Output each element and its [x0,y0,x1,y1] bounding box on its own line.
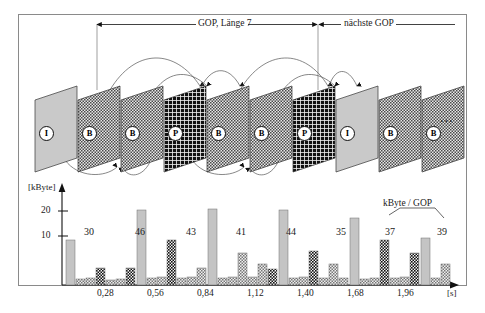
bar [339,278,348,285]
bar [400,277,409,285]
bar [197,268,206,285]
gop-total-7: 39 [437,226,447,237]
x-tick-1: 0,56 [147,288,164,298]
bar [116,279,125,285]
bar [208,209,217,285]
gop-total-6: 37 [385,226,395,237]
figure-root: I B B P B B P I B B GOP, Länge 7 nächste… [0,0,485,313]
bar [137,210,146,285]
bar [157,277,166,285]
bar [218,278,227,285]
gop-total-0: 30 [84,226,94,237]
bar [289,278,298,285]
bar [228,277,237,285]
bar [279,210,288,285]
bar [380,240,389,285]
kbyte-per-gop-leaders [389,208,444,218]
gop-total-1: 46 [135,226,145,237]
gop-total-3: 41 [236,226,246,237]
bar [76,279,85,285]
bar [441,264,450,285]
bar [106,280,115,285]
bar [96,268,105,285]
bar [329,264,338,285]
y-tick-10: 10 [41,230,51,240]
bar [350,218,359,285]
gop-total-5: 35 [336,226,346,237]
gop-total-4: 44 [286,226,296,237]
bar [360,279,369,285]
bar-chart-layer [0,0,485,313]
bar [238,253,247,285]
bar [431,278,440,285]
bar [86,278,95,285]
bar [268,269,277,285]
bar [248,277,257,285]
x-tick-2: 0,84 [197,288,214,298]
x-axis-label: [s] [447,288,457,298]
bar [319,278,328,285]
x-tick-5: 1,68 [347,288,364,298]
bar [167,240,176,285]
x-tick-4: 1,40 [297,288,314,298]
y-axis-label: [kByte] [28,182,56,192]
bar [370,278,379,285]
bar [147,278,156,285]
bar [299,277,308,285]
bar [421,238,430,285]
bar [309,251,318,285]
gop-total-2: 43 [186,226,196,237]
kbyte-per-gop-annotation: kByte / GOP [383,198,432,208]
bar [390,278,399,285]
bar [187,277,196,285]
bar [66,240,75,285]
x-tick-3: 1,12 [247,288,264,298]
x-tick-6: 1,96 [397,288,414,298]
x-tick-0: 0,28 [97,288,114,298]
bar [126,268,135,285]
bar [177,278,186,285]
bar [258,264,267,285]
bar [410,253,419,285]
bars [66,209,450,285]
y-tick-20: 20 [41,205,51,215]
